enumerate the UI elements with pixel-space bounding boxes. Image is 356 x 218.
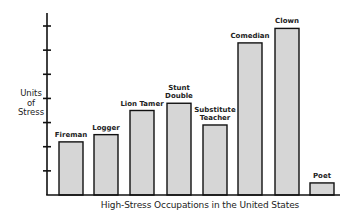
bar-substitute-teacher xyxy=(203,125,227,195)
bar-poet xyxy=(310,183,334,195)
bar-label-line: Comedian xyxy=(225,32,275,40)
bar-label: Fireman xyxy=(46,131,96,139)
bar-label: Clown xyxy=(262,17,312,25)
bar-label: Poet xyxy=(297,172,347,180)
y-axis-label: Units of Stress xyxy=(12,89,50,118)
bar-stunt-double xyxy=(167,103,191,195)
bar-lion-tamer xyxy=(130,111,154,196)
bar-label-line: Stunt xyxy=(154,84,204,92)
bar-label-line: Lion Tamer xyxy=(117,100,167,108)
bar-comedian xyxy=(238,43,262,195)
bar-logger xyxy=(94,135,118,195)
bar-label-line: Clown xyxy=(262,17,312,25)
bar-label-line: Double xyxy=(154,92,204,100)
bar-label-line: Poet xyxy=(297,172,347,180)
bar-clown xyxy=(275,28,299,195)
bar-label: Logger xyxy=(81,124,131,132)
bar-label: Lion Tamer xyxy=(117,100,167,108)
y-axis-label-line: Stress xyxy=(12,108,50,118)
bar-label-line: Fireman xyxy=(46,131,96,139)
bar-label: Comedian xyxy=(225,32,275,40)
x-axis-label: High-Stress Occupations in the United St… xyxy=(60,200,340,210)
bar-label-line: Logger xyxy=(81,124,131,132)
bar-label: StuntDouble xyxy=(154,84,204,100)
bar-label: SubstituteTeacher xyxy=(190,106,240,122)
bar-fireman xyxy=(59,142,83,195)
bar-label-line: Teacher xyxy=(190,114,240,122)
bar-label-line: Substitute xyxy=(190,106,240,114)
bar-chart xyxy=(0,0,356,218)
